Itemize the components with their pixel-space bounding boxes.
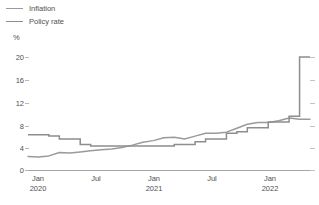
x-tick-jan-2022: Jan 2022 xyxy=(250,174,290,193)
x-tick-jan-2020: Jan 2020 xyxy=(18,174,58,193)
x-tick-jan-2021-year: 2021 xyxy=(134,184,174,194)
x-tick-jul-2021-month: Jul xyxy=(192,174,232,184)
x-tick-jan-2021-month: Jan xyxy=(134,174,174,184)
x-axis-line xyxy=(28,170,310,171)
x-tick-jan-2022-year: 2022 xyxy=(250,184,290,194)
x-tick-jul-2020-month: Jul xyxy=(76,174,116,184)
x-tick-jan-2021: Jan 2021 xyxy=(134,174,174,193)
x-tick-jan-2020-year: 2020 xyxy=(18,184,58,194)
x-tick-jul-2020: Jul xyxy=(76,174,116,184)
policy-rate-line xyxy=(28,57,310,146)
x-tick-jul-2021: Jul xyxy=(192,174,232,184)
chart-container: Inflation Policy rate % 20 16 12 8 4 0 J… xyxy=(0,0,319,205)
x-tick-jan-2020-month: Jan xyxy=(18,174,58,184)
x-tick-jan-2022-month: Jan xyxy=(250,174,290,184)
